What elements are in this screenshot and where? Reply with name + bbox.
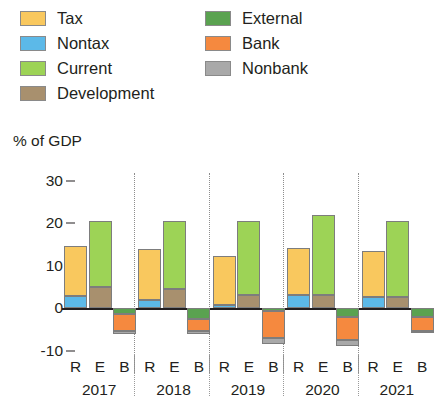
x-group-separator xyxy=(283,354,284,396)
bar-segment-current xyxy=(312,215,335,296)
x-label-2019-E: E xyxy=(237,358,260,376)
legend-swatch-icon-development xyxy=(20,86,46,101)
bar-segment-tax xyxy=(213,256,236,304)
x-label-2019-B: B xyxy=(262,358,285,376)
x-group-letters-2019: REB xyxy=(213,358,285,376)
legend-label-external: External xyxy=(242,10,303,27)
x-year-label-2019: 2019 xyxy=(211,381,285,399)
legend-item-nontax: Nontax xyxy=(20,31,154,56)
x-label-2021-B: B xyxy=(411,358,434,376)
bar-2017-E xyxy=(89,155,112,370)
legend-swatch-icon-current xyxy=(20,61,46,76)
bar-segment-tax xyxy=(362,251,385,298)
bar-segment-current xyxy=(386,221,409,298)
legend-item-bank: Bank xyxy=(205,31,308,56)
bar-segment-nontax xyxy=(362,297,385,308)
x-label-2018-E: E xyxy=(163,358,186,376)
bar-segment-external xyxy=(336,308,359,317)
bar-2021-E xyxy=(386,155,409,370)
x-year-label-2021: 2021 xyxy=(360,381,434,399)
bar-2021-R xyxy=(362,155,385,370)
bar-segment-bank xyxy=(113,314,136,332)
x-label-2018-R: R xyxy=(138,358,161,376)
bar-2017-B xyxy=(113,155,136,370)
x-label-2021-R: R xyxy=(362,358,385,376)
legend-label-nontax: Nontax xyxy=(57,35,109,52)
x-year-label-2020: 2020 xyxy=(285,381,359,399)
legend-column-left: Tax Nontax Current Development xyxy=(20,6,154,106)
y-tick-label: -10 xyxy=(0,342,63,360)
bar-segment-tax xyxy=(138,249,161,300)
legend-label-current: Current xyxy=(57,60,112,77)
y-tick-label: 20 xyxy=(0,214,63,232)
bar-2020-E xyxy=(312,155,335,370)
bar-segment-external xyxy=(187,308,210,319)
bar-segment-nonbank xyxy=(187,331,210,334)
bar-segment-nontax xyxy=(287,295,310,308)
y-axis-title: % of GDP xyxy=(13,132,82,150)
bar-segment-tax xyxy=(287,248,310,295)
bar-segment-bank xyxy=(411,317,434,332)
x-label-2020-R: R xyxy=(287,358,310,376)
bar-2020-R xyxy=(287,155,310,370)
bar-2017-R xyxy=(64,155,87,370)
bar-2019-E xyxy=(237,155,260,370)
legend-swatch-icon-tax xyxy=(20,11,46,26)
bar-segment-external xyxy=(411,308,434,317)
x-group-separator xyxy=(209,354,210,396)
legend-item-tax: Tax xyxy=(20,6,154,31)
x-label-2017-E: E xyxy=(89,358,112,376)
x-group-separator xyxy=(134,354,135,396)
x-label-2019-R: R xyxy=(213,358,236,376)
bar-segment-nonbank xyxy=(411,331,434,333)
bar-2020-B xyxy=(336,155,359,370)
x-axis-labels: REB2017REB2018REB2019REB2020REB2021 xyxy=(0,358,434,405)
bar-segment-bank xyxy=(262,311,285,338)
bar-segment-development xyxy=(89,287,112,308)
bar-segment-development xyxy=(312,295,335,308)
legend-label-nonbank: Nonbank xyxy=(242,60,308,77)
bar-segment-nonbank xyxy=(336,340,359,346)
bar-2021-B xyxy=(411,155,434,370)
bar-segment-bank xyxy=(336,317,359,340)
chart-legend: Tax Nontax Current Development External … xyxy=(0,0,434,118)
legend-label-development: Development xyxy=(57,85,154,102)
bar-segment-development xyxy=(386,297,409,308)
bar-segment-nontax xyxy=(138,300,161,309)
x-year-label-2017: 2017 xyxy=(62,381,136,399)
x-group-letters-2021: REB xyxy=(362,358,434,376)
legend-item-nonbank: Nonbank xyxy=(205,56,308,81)
x-label-2018-B: B xyxy=(187,358,210,376)
bar-segment-development xyxy=(163,289,186,308)
bar-segment-nontax xyxy=(213,305,236,308)
bar-segment-bank xyxy=(187,319,210,332)
x-group-separator xyxy=(358,354,359,396)
x-label-2020-E: E xyxy=(312,358,335,376)
x-label-2017-R: R xyxy=(64,358,87,376)
bar-2019-R xyxy=(213,155,236,370)
plot-area xyxy=(62,155,434,370)
bar-2019-B xyxy=(262,155,285,370)
legend-item-development: Development xyxy=(20,81,154,106)
x-year-label-2018: 2018 xyxy=(136,381,210,399)
bar-segment-development xyxy=(237,295,260,308)
x-group-letters-2017: REB xyxy=(64,358,136,376)
legend-label-tax: Tax xyxy=(57,10,83,27)
x-label-2017-B: B xyxy=(113,358,136,376)
bar-2018-E xyxy=(163,155,186,370)
legend-item-external: External xyxy=(205,6,308,31)
bar-segment-current xyxy=(163,221,186,289)
bar-segment-current xyxy=(237,221,260,295)
x-label-2020-B: B xyxy=(336,358,359,376)
x-group-letters-2020: REB xyxy=(287,358,359,376)
y-tick-label: 0 xyxy=(0,299,63,317)
legend-label-bank: Bank xyxy=(242,35,280,52)
legend-swatch-icon-nonbank xyxy=(205,61,231,76)
bar-2018-R xyxy=(138,155,161,370)
bar-segment-nontax xyxy=(64,296,87,308)
bar-2018-B xyxy=(187,155,210,370)
x-group-letters-2018: REB xyxy=(138,358,210,376)
x-label-2021-E: E xyxy=(386,358,409,376)
bar-segment-tax xyxy=(64,246,87,295)
y-tick-label: 10 xyxy=(0,257,63,275)
